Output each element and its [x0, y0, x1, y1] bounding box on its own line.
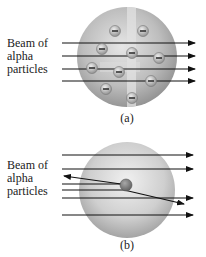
nucleus-icon: [120, 179, 132, 191]
beam-label-line-3: particles: [7, 62, 48, 76]
beam-label-line-1: Beam of: [7, 36, 48, 50]
electron-icon: [138, 26, 149, 37]
caption-b: (b): [120, 238, 134, 252]
beam-label-line-2: alpha: [7, 171, 34, 185]
electron-icon: [127, 48, 138, 59]
electron-icon: [87, 63, 98, 74]
electron-icon: [127, 93, 138, 104]
panel-b: Beam of alpha particles (b): [7, 142, 193, 252]
electron-icon: [101, 84, 112, 95]
rutherford-scattering-diagram: Beam of alpha particles (a) Beam of: [0, 0, 206, 257]
electron-icon: [114, 67, 125, 78]
panel-a: Beam of alpha particles (a): [7, 7, 195, 125]
beam-label-line-1: Beam of: [7, 158, 48, 172]
beam-label-line-3: particles: [7, 184, 48, 198]
electron-icon: [110, 26, 121, 37]
electron-icon: [154, 53, 165, 64]
electron-icon: [146, 76, 157, 87]
beam-label-line-2: alpha: [7, 49, 34, 63]
caption-a: (a): [120, 111, 133, 125]
electron-icon: [97, 44, 108, 55]
